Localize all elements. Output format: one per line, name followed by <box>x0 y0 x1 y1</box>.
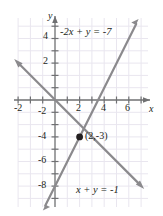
y-tick-label-neg8: -8 <box>38 180 46 190</box>
intersection-point-marker <box>76 134 83 141</box>
y-tick-label-2: 2 <box>43 56 48 66</box>
x-axis-label: x <box>149 104 153 114</box>
line-minus2x-plus-y-equals-minus7 <box>43 19 139 211</box>
y-tick-label-neg2: -2 <box>38 106 46 116</box>
x-tick-label-6: 6 <box>125 103 130 113</box>
coordinate-graph-figure: -2 2 4 6 x 4 2 -2 -4 -6 -8 y -2x + y = -… <box>0 0 163 216</box>
ascending-line-arrowhead-top <box>131 19 138 25</box>
y-tick-label-4: 4 <box>43 31 48 41</box>
x-tick-label-neg2: -2 <box>14 103 22 113</box>
y-axis <box>52 16 59 207</box>
y-tick-label-neg4: -4 <box>38 131 46 141</box>
equation-label-top: -2x + y = -7 <box>60 27 112 38</box>
y-tick-label-neg6: -6 <box>38 155 46 165</box>
x-tick-label-2: 2 <box>76 103 81 113</box>
intersection-point-label: (2,-3) <box>85 131 108 141</box>
y-axis-label: y <box>48 11 52 21</box>
y-axis-arrowhead <box>52 16 58 23</box>
x-axis-arrowhead <box>143 97 150 103</box>
equation-label-bottom: x + y = -1 <box>76 185 119 196</box>
x-tick-label-4: 4 <box>101 103 106 113</box>
ascending-line-arrowhead-bottom <box>43 205 50 211</box>
